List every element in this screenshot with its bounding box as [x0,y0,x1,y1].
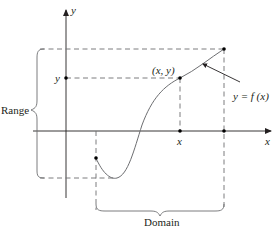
range-brace [31,49,44,178]
x-tick-label: x [176,135,182,147]
x-axis-label: x [264,135,270,147]
domain-brace [96,204,224,216]
y-axis-label: y [70,4,76,16]
y-tick-label: y [54,72,60,84]
domain-range-diagram: y x y x (x, y) y = f (x) Range Domain [0,0,277,230]
point-xy [178,76,182,80]
x-axis-point [178,129,182,133]
start-point [94,156,98,160]
point-label: (x, y) [152,64,175,77]
x-axis-end-point [222,129,226,133]
range-label: Range [1,104,29,116]
function-pointer-arrow [203,64,240,82]
function-label: y = f (x) [232,90,269,103]
end-point [222,47,226,51]
y-axis-point [64,76,68,80]
domain-label: Domain [144,216,180,228]
